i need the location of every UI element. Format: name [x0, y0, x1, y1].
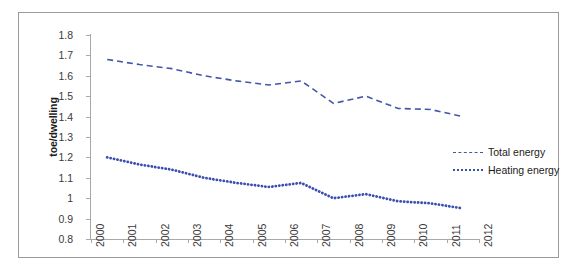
- series-line: [107, 157, 463, 208]
- y-axis-tick: [86, 157, 90, 158]
- x-axis-tick: [350, 239, 351, 243]
- x-axis-tick-label: 2007: [321, 224, 331, 247]
- x-axis-tick-label: 2010: [418, 224, 428, 247]
- x-axis-tick: [414, 239, 415, 243]
- y-axis-tick: [86, 137, 90, 138]
- y-axis-tick: [86, 55, 90, 56]
- x-axis-tick-label: 2003: [192, 224, 202, 247]
- x-axis-tick-label: 2005: [257, 224, 267, 247]
- x-axis-tick: [123, 239, 124, 243]
- x-axis-tick: [447, 239, 448, 243]
- x-axis-tick-label: 2009: [386, 224, 396, 247]
- x-axis-tick-label: 2001: [127, 224, 137, 247]
- legend-label: Heating energy: [488, 164, 559, 176]
- x-axis-tick-label: 2012: [483, 224, 493, 247]
- legend-item-heating-energy: Heating energy: [453, 161, 575, 179]
- x-axis-tick: [188, 239, 189, 243]
- y-axis-tick-label: 1.8: [33, 30, 73, 40]
- plot-area: [91, 35, 479, 239]
- y-axis-tick: [86, 96, 90, 97]
- y-axis-tick-label: 1.7: [33, 50, 73, 60]
- x-axis-tick: [220, 239, 221, 243]
- y-axis-tick-label: 0.9: [33, 214, 73, 224]
- y-axis-tick: [86, 117, 90, 118]
- series-lines: [91, 35, 479, 239]
- x-axis-tick-label: 2006: [289, 224, 299, 247]
- y-axis-tick-label: 0.8: [33, 234, 73, 244]
- x-axis-tick-label: 2000: [95, 224, 105, 247]
- x-axis-tick: [382, 239, 383, 243]
- x-axis-tick: [91, 239, 92, 243]
- x-axis-tick: [479, 239, 480, 243]
- legend-dashed-line-icon: [453, 152, 483, 153]
- x-axis-tick-label: 2008: [354, 224, 364, 247]
- y-axis-tick: [86, 239, 90, 240]
- y-axis-tick-label: 1: [33, 193, 73, 203]
- x-axis-tick: [156, 239, 157, 243]
- y-axis-tick: [86, 219, 90, 220]
- legend-dotted-line-icon: [453, 169, 483, 171]
- x-axis-tick-label: 2004: [224, 224, 234, 247]
- series-line: [107, 59, 463, 116]
- y-axis-tick: [86, 76, 90, 77]
- y-axis-tick: [86, 198, 90, 199]
- chart-legend: Total energy Heating energy: [453, 143, 575, 179]
- y-axis-title: toe/dwelling: [47, 67, 59, 187]
- x-axis-tick: [285, 239, 286, 243]
- chart-frame: 1.81.71.61.51.41.31.21.110.90.8 20002001…: [18, 12, 559, 258]
- y-axis-tick: [86, 178, 90, 179]
- x-axis-tick-label: 2011: [451, 224, 461, 247]
- x-axis-tick: [253, 239, 254, 243]
- y-axis-tick: [86, 35, 90, 36]
- legend-item-total-energy: Total energy: [453, 143, 575, 161]
- legend-label: Total energy: [488, 146, 545, 158]
- x-axis-tick: [317, 239, 318, 243]
- x-axis-tick-label: 2002: [160, 224, 170, 247]
